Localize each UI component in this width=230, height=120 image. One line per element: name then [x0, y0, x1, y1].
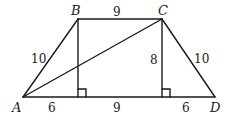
length-footc-d: 6 [182, 101, 190, 115]
right-angle-marker-b [78, 89, 86, 97]
vertex-label-a: A [11, 100, 21, 115]
right-angle-marker-c [162, 89, 170, 97]
length-ab: 10 [31, 52, 46, 66]
length-bc: 9 [113, 5, 121, 19]
vertex-label-d: D [209, 100, 221, 115]
vertex-label-b: B [70, 3, 81, 18]
length-a-footb: 6 [48, 101, 56, 115]
trapezoid-diagram: B C A D 9 10 10 8 6 9 6 [0, 0, 230, 120]
vertex-label-c: C [158, 3, 168, 18]
length-footb-footc: 9 [113, 101, 121, 115]
height-c: 8 [150, 53, 158, 67]
length-cd: 10 [194, 52, 209, 66]
